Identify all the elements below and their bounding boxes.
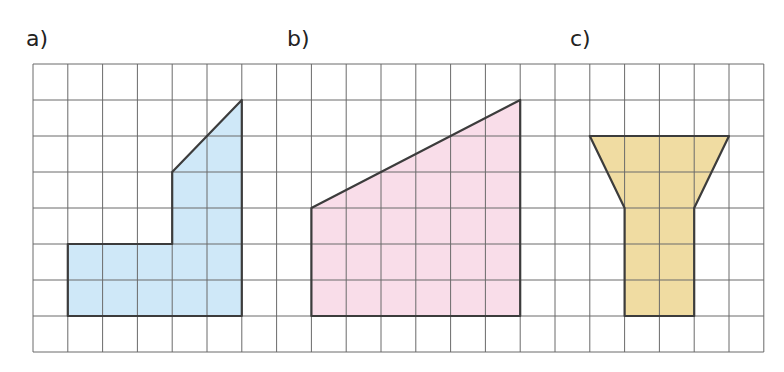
grid-diagram xyxy=(0,0,784,372)
